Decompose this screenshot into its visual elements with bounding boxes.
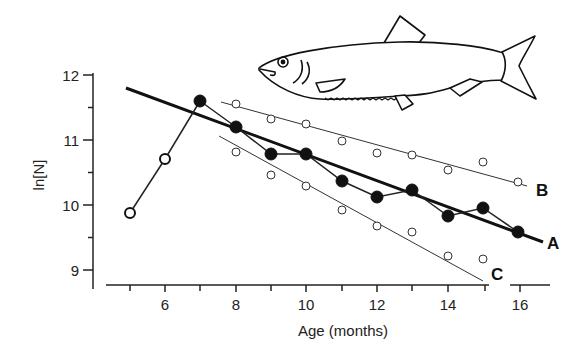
label-a: A: [547, 234, 559, 253]
chart: 12 11 10 9 ln[N] 6 8 10 12 14 16 Age (mo…: [0, 0, 575, 358]
x-axis-title: Age (months): [298, 322, 388, 339]
x-tick-labels: 6 8 10 12 14 16: [161, 296, 529, 313]
x-axis: [106, 285, 550, 292]
y-axis-title: ln[N]: [30, 160, 47, 191]
y-tick-12: 12: [62, 67, 79, 84]
x-tick-10: 10: [298, 296, 315, 313]
x-tick-8: 8: [232, 296, 240, 313]
y-tick-9: 9: [71, 262, 79, 279]
x-tick-6: 6: [161, 296, 169, 313]
label-b: B: [536, 181, 548, 200]
x-tick-16: 16: [512, 296, 529, 313]
y-tick-11: 11: [63, 132, 79, 149]
y-axis: [83, 73, 93, 289]
y-tick-labels: 12 11 10 9: [62, 67, 79, 279]
label-c: C: [491, 265, 503, 284]
x-tick-14: 14: [440, 296, 457, 313]
fish-illustration: [259, 16, 536, 110]
x-tick-12: 12: [369, 296, 386, 313]
y-tick-10: 10: [62, 197, 79, 214]
series-c-points: [232, 148, 487, 263]
regression-line-c: [219, 136, 483, 281]
